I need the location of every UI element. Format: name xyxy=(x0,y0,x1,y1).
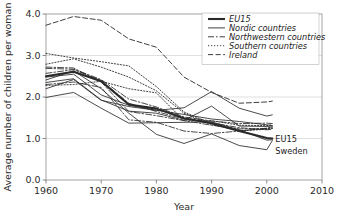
y-tick-label: 2.0 xyxy=(25,91,40,102)
series-end-annotations: EU15Sweden xyxy=(275,134,307,156)
chart-figure: 0.01.02.03.04.0 196019701980199020002010… xyxy=(0,0,338,224)
x-axis-tick-labels: 196019701980199020002010 xyxy=(34,185,334,196)
y-tick-label: 3.0 xyxy=(25,50,40,61)
annotation-sweden: Sweden xyxy=(275,146,307,156)
legend-label-4: Ireland xyxy=(229,50,258,60)
x-tick-label: 2010 xyxy=(310,185,334,196)
series-line-1 xyxy=(46,74,272,125)
series-line-10 xyxy=(46,53,272,131)
grid-lines xyxy=(46,56,322,139)
series-line-11 xyxy=(46,59,272,131)
x-tick-label: 1990 xyxy=(200,185,224,196)
x-tick-label: 1970 xyxy=(89,185,113,196)
chart-legend: EU15Nordic countriesNorthwestern countri… xyxy=(202,13,326,65)
x-tick-label: 1960 xyxy=(34,185,58,196)
series-line-12 xyxy=(46,81,272,125)
series-line-2 xyxy=(46,79,272,127)
y-tick-label: 1.0 xyxy=(25,133,40,144)
y-tick-label: 4.0 xyxy=(25,8,40,19)
x-tick-label: 2000 xyxy=(255,185,279,196)
x-axis-label: Year xyxy=(173,201,194,212)
y-axis-label: Average number of children per woman xyxy=(2,3,13,192)
x-axis-title: Year xyxy=(173,201,194,212)
fertility-line-chart: 0.01.02.03.04.0 196019701980199020002010… xyxy=(0,0,338,224)
x-tick-label: 1980 xyxy=(144,185,168,196)
y-axis-tick-labels: 0.01.02.03.04.0 xyxy=(25,8,40,185)
annotation-eu15: EU15 xyxy=(275,134,297,144)
series-line-7 xyxy=(46,67,272,129)
y-axis-title: Average number of children per woman xyxy=(2,3,13,192)
